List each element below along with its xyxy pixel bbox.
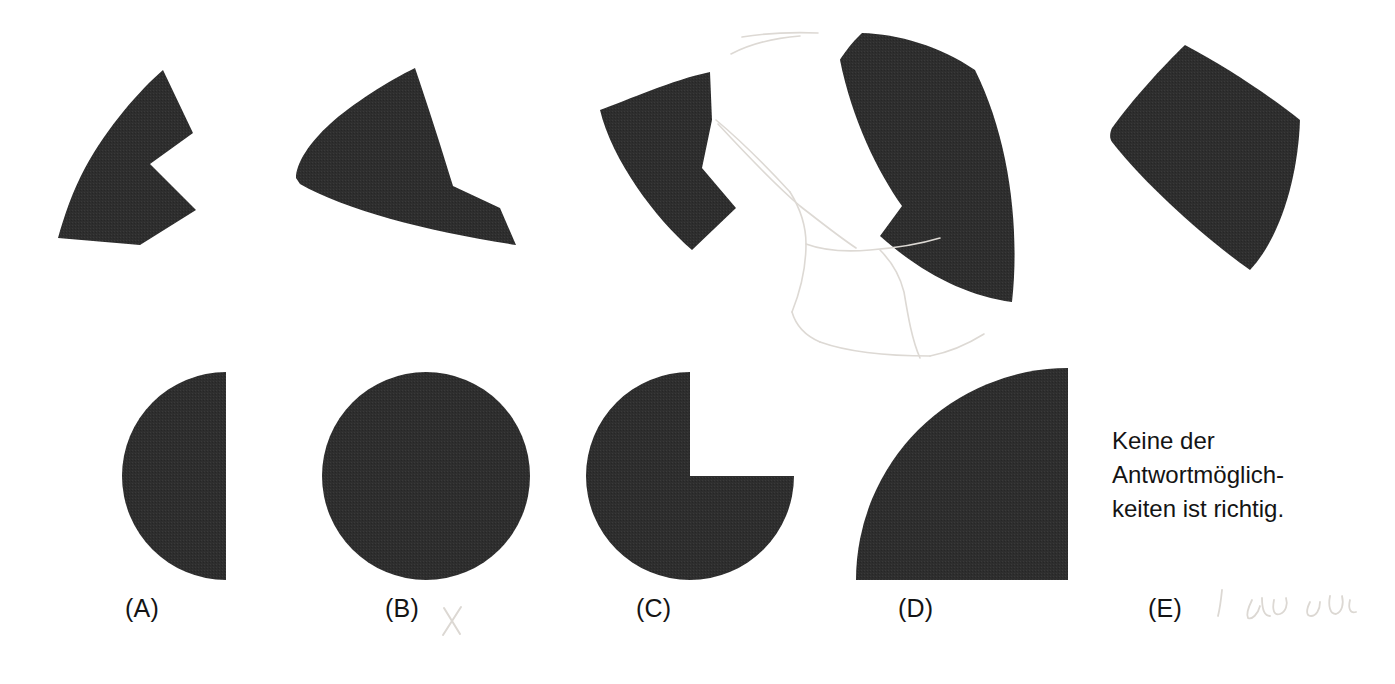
prompt-fragment-2 <box>296 68 516 245</box>
fragment-1-shape <box>58 70 196 245</box>
option-label-c[interactable]: (C) <box>636 596 671 621</box>
option-label-d[interactable]: (D) <box>898 596 933 621</box>
prompt-fragment-1 <box>58 70 196 245</box>
quarter-circle-shape <box>856 368 1068 580</box>
option-e-text[interactable]: Keine der Antwortmöglich- keiten ist ric… <box>1112 424 1362 526</box>
prompt-fragment-4 <box>1110 45 1300 270</box>
pencil-x-mark <box>443 607 461 635</box>
half-circle-left-shape <box>122 372 226 580</box>
fragment-3-right-shape <box>840 33 1015 302</box>
pencil-scribble-near-e <box>1218 590 1356 618</box>
option-label-e[interactable]: (E) <box>1148 596 1182 621</box>
option-d-figure[interactable] <box>856 368 1068 580</box>
figures-canvas <box>0 0 1395 684</box>
fragment-2-shape <box>296 68 516 245</box>
option-c-figure[interactable] <box>586 372 794 580</box>
option-label-a[interactable]: (A) <box>125 596 159 621</box>
full-circle-shape <box>322 372 530 580</box>
prompt-fragment-3 <box>600 33 1015 358</box>
option-label-b[interactable]: (B) <box>385 596 419 621</box>
test-sheet-page: (A) (B) (C) (D) (E) Keine der Antwortmög… <box>0 0 1395 684</box>
three-quarter-circle-shape <box>586 372 794 580</box>
fragment-3-left-shape <box>600 72 736 250</box>
option-a-figure[interactable] <box>122 372 226 580</box>
fragment-4-shape <box>1110 45 1300 270</box>
option-b-figure[interactable] <box>322 372 530 580</box>
